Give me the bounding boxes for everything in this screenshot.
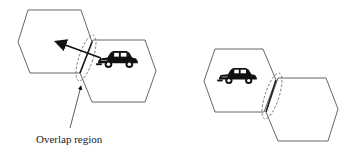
car-icon <box>96 51 138 68</box>
left-panel <box>18 10 156 128</box>
overlap-pointer-arrow-icon <box>70 86 81 128</box>
overlap-region-label: Overlap region <box>36 133 102 145</box>
shared-boundary <box>266 80 276 112</box>
shared-boundary <box>80 42 92 73</box>
right-panel <box>204 49 338 141</box>
cell-hexagon-3 <box>204 49 276 112</box>
cell-hexagon-4 <box>266 78 338 141</box>
car-icon <box>217 68 257 84</box>
cell-hexagon-2 <box>80 40 156 102</box>
cell-hexagon-1 <box>18 10 92 73</box>
